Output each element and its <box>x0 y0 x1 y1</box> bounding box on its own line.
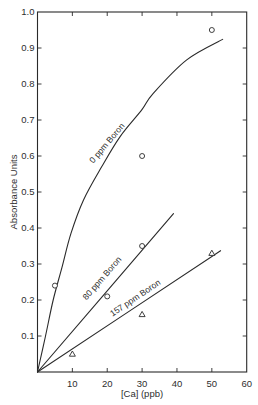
circle-marker-icon <box>52 283 57 288</box>
y-tick-label: 0.7 <box>21 114 34 125</box>
chart-background <box>0 0 258 405</box>
y-tick-label: 0.3 <box>21 258 34 269</box>
y-tick-label: 0.4 <box>21 222 34 233</box>
y-tick-label: 0.8 <box>21 78 34 89</box>
y-tick-label: 0.9 <box>21 42 34 53</box>
circle-marker-icon <box>105 294 110 299</box>
x-tick-label: 10 <box>67 378 78 389</box>
y-tick-label: 0.2 <box>21 294 34 305</box>
x-axis-title: [Ca] (ppb) <box>121 388 163 399</box>
circle-marker-icon <box>140 154 145 159</box>
x-tick-label: 50 <box>207 378 218 389</box>
y-tick-label: 1.0 <box>21 6 34 17</box>
y-tick-label: 0.6 <box>21 150 34 161</box>
y-tick-label: 0.1 <box>21 330 34 341</box>
x-tick-label: 20 <box>102 378 113 389</box>
circle-marker-icon <box>209 28 214 33</box>
chart-figure: 1020304050600.10.20.30.40.50.60.70.80.91… <box>0 0 258 405</box>
x-tick-label: 60 <box>241 378 252 389</box>
y-axis-title: Absorbance Units <box>8 154 19 229</box>
y-tick-label: 0.5 <box>21 186 34 197</box>
x-tick-label: 40 <box>172 378 183 389</box>
circle-marker-icon <box>140 244 145 249</box>
